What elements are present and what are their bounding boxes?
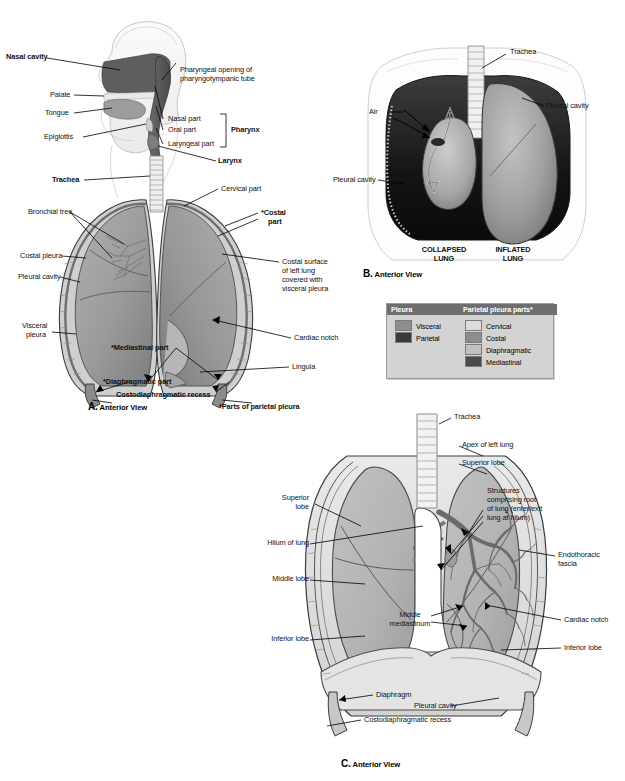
label-middle-mediastinum-line2: mediastinum xyxy=(382,620,438,629)
panel-c-anterior-view: Trachea Apex of left lung Superior lobe … xyxy=(255,408,625,781)
label-air: Air xyxy=(369,108,378,117)
label-lingula: Lingula xyxy=(292,363,315,372)
panel-a-caption-text: Anterior View xyxy=(100,403,148,412)
legend-swatch-parietal xyxy=(395,332,412,343)
tongue-shape xyxy=(104,99,145,119)
label-diaphragm: Diaphragm xyxy=(376,691,411,700)
label-tongue: Tongue xyxy=(45,109,69,118)
legend-item-costal: Costal xyxy=(465,332,506,344)
legend-swatch-diaphragmatic xyxy=(465,344,482,355)
label-trachea-a: Trachea xyxy=(52,176,79,185)
legend-item-parietal: Parietal xyxy=(395,332,440,344)
legend-label-cervical: Cervical xyxy=(486,322,511,331)
label-trachea-b: Trachea xyxy=(510,48,536,57)
label-cardiac-notch-a: Cardiac notch xyxy=(294,334,338,343)
legend-label-diaphragmatic: Diaphragmatic xyxy=(486,346,531,355)
panel-c-caption: C. Anterior View xyxy=(341,758,400,769)
panel-a-caption: A. Anterior View xyxy=(88,401,147,412)
label-laryngeal-part: Laryngeal part xyxy=(168,140,214,149)
pharynx-bracket xyxy=(220,114,226,147)
legend-label-mediastinal: Mediastinal xyxy=(486,358,521,367)
label-bronchial-tree: Bronchial tree xyxy=(28,208,72,217)
label-pharynx: Pharynx xyxy=(231,126,259,135)
legend-header-parietal-parts: Parietal pleura parts* xyxy=(459,304,557,315)
label-nasal-part: Nasal part xyxy=(168,115,201,124)
label-costodiaphragmatic-recess-c: Costodiaphragmatic recess xyxy=(364,716,451,725)
label-trachea-c: Trachea xyxy=(454,413,480,422)
legend-label-costal: Costal xyxy=(486,334,506,343)
label-hilum-of-lung: Hilum of lung xyxy=(255,539,309,548)
legend-swatch-visceral xyxy=(395,320,412,331)
collapsed-lung-hilum xyxy=(431,138,445,146)
label-costal-surface-line4: visceral pleura xyxy=(282,285,328,294)
legend-item-mediastinal: Mediastinal xyxy=(465,356,521,368)
label-oral-part: Oral part xyxy=(168,126,196,135)
label-nasal-cavity: Nasal cavity xyxy=(6,53,48,62)
label-pharyngeal-opening-line2: pharyngotympanic tube xyxy=(180,75,255,84)
legend-item-cervical: Cervical xyxy=(465,320,511,332)
panel-a-anterior-view: Nasal cavity Pharyngeal opening of phary… xyxy=(0,0,330,420)
label-apex-of-left-lung: Apex of left lung xyxy=(462,441,513,450)
label-middle-lobe: Middle lobe xyxy=(255,575,309,584)
label-pleural-cavity-b-left: Pleural cavity xyxy=(333,176,376,185)
trachea-shape-c xyxy=(417,414,437,508)
panel-b-caption: B. Anterior View xyxy=(363,268,422,279)
label-palate: Palate xyxy=(50,91,70,100)
label-pleural-cavity-b-right: Pleural cavity xyxy=(546,102,589,111)
panel-a-letter: A. xyxy=(88,401,98,412)
legend-header-pleura: Pleura xyxy=(387,304,463,315)
label-cardiac-notch-c: Cardiac notch xyxy=(564,616,608,625)
label-superior-lobe-right: Superior lobe xyxy=(462,459,505,468)
label-visceral-pleura-line2: pleura xyxy=(26,331,46,340)
legend-item-visceral: Visceral xyxy=(395,320,441,332)
legend-item-diaphragmatic: Diaphragmatic xyxy=(465,344,531,356)
panel-b-letter: B. xyxy=(363,268,373,279)
label-structures-root-line4: lung at hilum) xyxy=(487,514,530,523)
label-pleural-cavity-c: Pleural cavity xyxy=(414,702,457,711)
legend-box: Pleura Parietal pleura parts* Visceral P… xyxy=(386,303,554,379)
label-costal-pleura: Costal pleura xyxy=(20,252,62,261)
label-epiglottis: Epiglottis xyxy=(44,133,73,142)
label-superior-lobe-left-line2: lobe xyxy=(261,503,309,512)
trachea-shape xyxy=(150,156,163,212)
label-inferior-lobe-right: Inferior lobe xyxy=(564,644,602,653)
left-lung-shape xyxy=(157,200,253,408)
panel-c-illustration xyxy=(255,408,625,781)
label-costodiaphragmatic-recess-a: Costodiaphragmatic recess xyxy=(116,391,210,400)
label-inferior-lobe-left: Inferior lobe xyxy=(255,635,309,644)
panel-b-illustration xyxy=(330,28,625,293)
panel-b-caption-text: Anterior View xyxy=(375,270,423,279)
label-larynx: Larynx xyxy=(218,157,242,166)
panel-b-anterior-view: Trachea Air Pleural cavity Pleural cavit… xyxy=(330,28,625,293)
legend-swatch-cervical xyxy=(465,320,482,331)
label-collapsed-lung-line2: LUNG xyxy=(414,255,474,264)
legend-swatch-mediastinal xyxy=(465,356,482,367)
label-diaphragmatic-part: *Diaphragmatic part xyxy=(103,378,171,387)
label-costal-part-line2: part xyxy=(268,218,282,227)
label-endothoracic-fascia-line2: fascia xyxy=(558,560,577,569)
label-mediastinal-part: *Mediastinal part xyxy=(111,344,168,353)
label-pleural-cavity-a: Pleural cavity xyxy=(18,273,61,282)
legend-swatch-costal xyxy=(465,332,482,343)
label-cervical-part: Cervical part xyxy=(221,185,261,194)
panel-c-caption-text: Anterior View xyxy=(353,760,401,769)
label-inflated-lung-line2: LUNG xyxy=(485,255,541,264)
legend-label-visceral: Visceral xyxy=(416,322,441,331)
panel-c-letter: C. xyxy=(341,758,351,769)
legend-label-parietal: Parietal xyxy=(416,334,440,343)
